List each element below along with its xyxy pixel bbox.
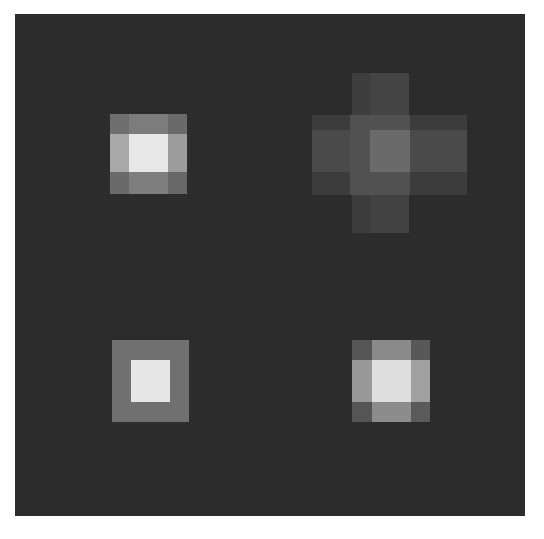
patch-cell — [129, 172, 168, 194]
patch-cell — [372, 402, 411, 422]
patch-cell — [110, 172, 129, 194]
patch-cell — [129, 134, 168, 172]
patch-cell — [370, 195, 409, 233]
patch-cell — [352, 402, 372, 422]
patch-cell — [131, 360, 170, 402]
patch-cell — [370, 130, 410, 172]
patch-cell — [110, 114, 129, 134]
patch-cell — [372, 340, 411, 360]
patch-cell — [129, 114, 168, 134]
patch-cell — [352, 340, 372, 360]
patch-cell — [372, 360, 411, 402]
patch-cell — [168, 134, 187, 172]
patch-cell — [411, 360, 430, 402]
patch-cell — [370, 73, 409, 115]
patch-cell — [168, 172, 187, 194]
patch-cell — [110, 134, 129, 172]
dark-field — [15, 14, 525, 516]
patch-cell — [168, 114, 187, 134]
patch-cell — [352, 360, 372, 402]
patch-cell — [411, 340, 430, 360]
patch-cell — [411, 402, 430, 422]
